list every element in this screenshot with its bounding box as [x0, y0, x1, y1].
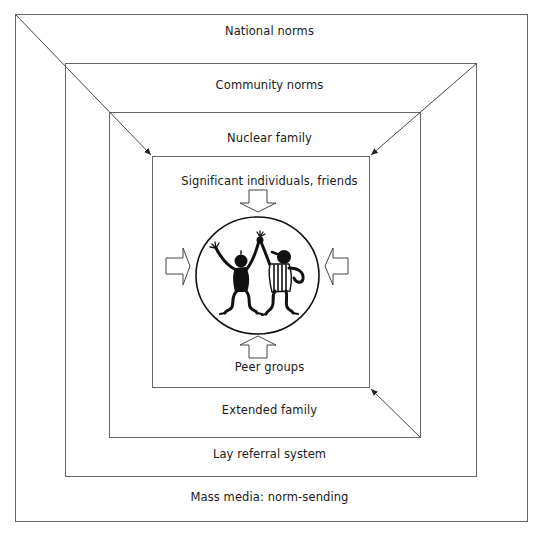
label-extended-family: Extended family	[0, 403, 539, 417]
label-peer-groups: Peer groups	[0, 360, 539, 374]
label-significant-individuals: Significant individuals, friends	[0, 174, 539, 188]
inward-arrow-top-icon	[240, 190, 276, 212]
label-nuclear-family: Nuclear family	[0, 131, 539, 145]
dancing-figure-left-icon	[210, 241, 262, 314]
social-influence-diagram: National norms Community norms Nuclear f…	[0, 0, 539, 536]
label-national-norms: National norms	[0, 24, 539, 38]
frame-nuclear-family	[110, 113, 421, 438]
center-circle	[196, 217, 319, 334]
inward-arrow-bottom-icon	[240, 336, 276, 358]
label-mass-media: Mass media: norm-sending	[0, 490, 539, 504]
label-lay-referral-system: Lay referral system	[0, 447, 539, 461]
inward-arrow-right-icon	[325, 248, 348, 285]
dancing-figure-right-icon	[261, 242, 303, 315]
inward-arrow-left-icon	[166, 248, 190, 285]
label-community-norms: Community norms	[0, 78, 539, 92]
